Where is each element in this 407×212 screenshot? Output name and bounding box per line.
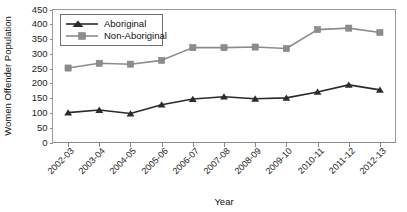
y-tick-label: 150 [32, 92, 48, 103]
x-tick-label: 2010-11 [296, 146, 326, 176]
data-point-nonaboriginal [314, 27, 320, 33]
x-tick-label: 2004-05 [107, 146, 137, 176]
legend-marker-nonaboriginal [79, 33, 86, 40]
y-tick-label: 400 [32, 18, 48, 29]
x-axis-title: Year [214, 196, 233, 207]
y-tick-label: 350 [32, 33, 48, 44]
data-point-nonaboriginal [190, 45, 196, 51]
data-point-nonaboriginal [283, 45, 289, 51]
y-axis-ticks: 050100150200250300350400450 [32, 4, 53, 148]
y-tick-label: 250 [32, 63, 48, 74]
legend-label-aboriginal: Aboriginal [104, 18, 146, 29]
x-tick-label: 2002-03 [45, 146, 75, 176]
y-tick-label: 0 [42, 137, 47, 148]
data-point-nonaboriginal [127, 61, 133, 67]
data-point-nonaboriginal [159, 57, 165, 63]
data-point-nonaboriginal [96, 60, 102, 66]
y-tick-label: 300 [32, 48, 48, 59]
data-point-nonaboriginal [221, 45, 227, 51]
x-tick-label: 2011-12 [327, 146, 357, 176]
x-tick-label: 2005-06 [139, 146, 169, 176]
y-axis-title: Women Offender Population [2, 16, 13, 136]
y-tick-label: 50 [37, 122, 48, 133]
data-point-nonaboriginal [377, 29, 383, 35]
y-tick-label: 200 [32, 77, 48, 88]
x-tick-label: 2003-04 [76, 146, 106, 176]
x-tick-label: 2006-07 [170, 146, 200, 176]
line-chart: Women Offender Population 05010015020025… [0, 0, 407, 212]
x-axis-tick-labels: 2002-032003-042004-052005-062006-072007-… [45, 146, 387, 176]
x-tick-label: 2009-10 [263, 146, 293, 176]
chart-legend: Aboriginal Non-Aboriginal [61, 15, 167, 46]
chart-container: Women Offender Population 05010015020025… [0, 0, 407, 212]
data-point-nonaboriginal [65, 65, 71, 71]
x-tick-label: 2007-08 [201, 146, 231, 176]
data-point-nonaboriginal [252, 44, 258, 50]
y-tick-label: 450 [32, 4, 48, 15]
x-tick-label: 2012-13 [357, 146, 387, 176]
y-tick-label: 100 [32, 107, 48, 118]
x-tick-label: 2008-09 [232, 146, 262, 176]
legend-label-nonaboriginal: Non-Aboriginal [104, 30, 167, 41]
data-point-nonaboriginal [346, 25, 352, 31]
